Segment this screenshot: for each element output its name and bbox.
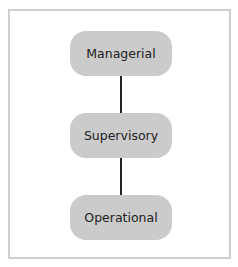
node-label: Managerial (86, 46, 155, 61)
node-label: Supervisory (84, 128, 158, 143)
node-operational: Operational (70, 195, 172, 240)
node-supervisory: Supervisory (70, 113, 172, 158)
node-label: Operational (84, 210, 157, 225)
connector-supervisory-operational (120, 158, 122, 196)
connector-managerial-supervisory (120, 76, 122, 115)
node-managerial: Managerial (70, 31, 172, 76)
